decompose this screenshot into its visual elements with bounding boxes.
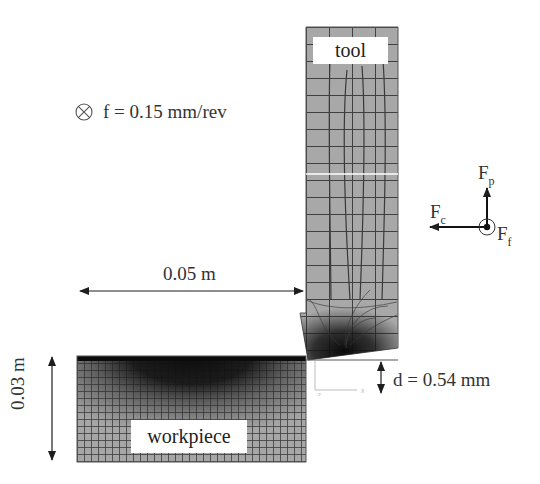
svg-text:z: z <box>318 391 321 397</box>
passive-force-subscript: p <box>489 174 495 188</box>
feed-force-label: Ff <box>497 224 512 243</box>
tool-body <box>300 27 398 360</box>
feed-rate-label: f = 0.15 mm/rev <box>103 102 227 121</box>
feed-force-symbol: F <box>497 223 508 244</box>
depth-of-cut-label: d = 0.54 mm <box>393 370 490 389</box>
axis-triad-icon: x z <box>315 361 365 397</box>
cutting-force-symbol: F <box>430 201 441 222</box>
width-dimension-label: 0.05 m <box>163 264 216 283</box>
svg-text:x: x <box>361 387 365 394</box>
cutting-force-label: Fc <box>430 202 446 221</box>
feed-force-subscript: f <box>508 235 512 249</box>
workpiece-label: workpiece <box>131 420 247 453</box>
cutting-model-diagram: x z <box>0 0 540 484</box>
feed-into-page-icon <box>76 104 92 120</box>
tool-label: tool <box>313 37 388 64</box>
passive-force-label: Fp <box>478 163 495 182</box>
cutting-force-subscript: c <box>441 213 446 227</box>
passive-force-symbol: F <box>478 162 489 183</box>
height-dimension-label: 0.03 m <box>8 357 27 410</box>
